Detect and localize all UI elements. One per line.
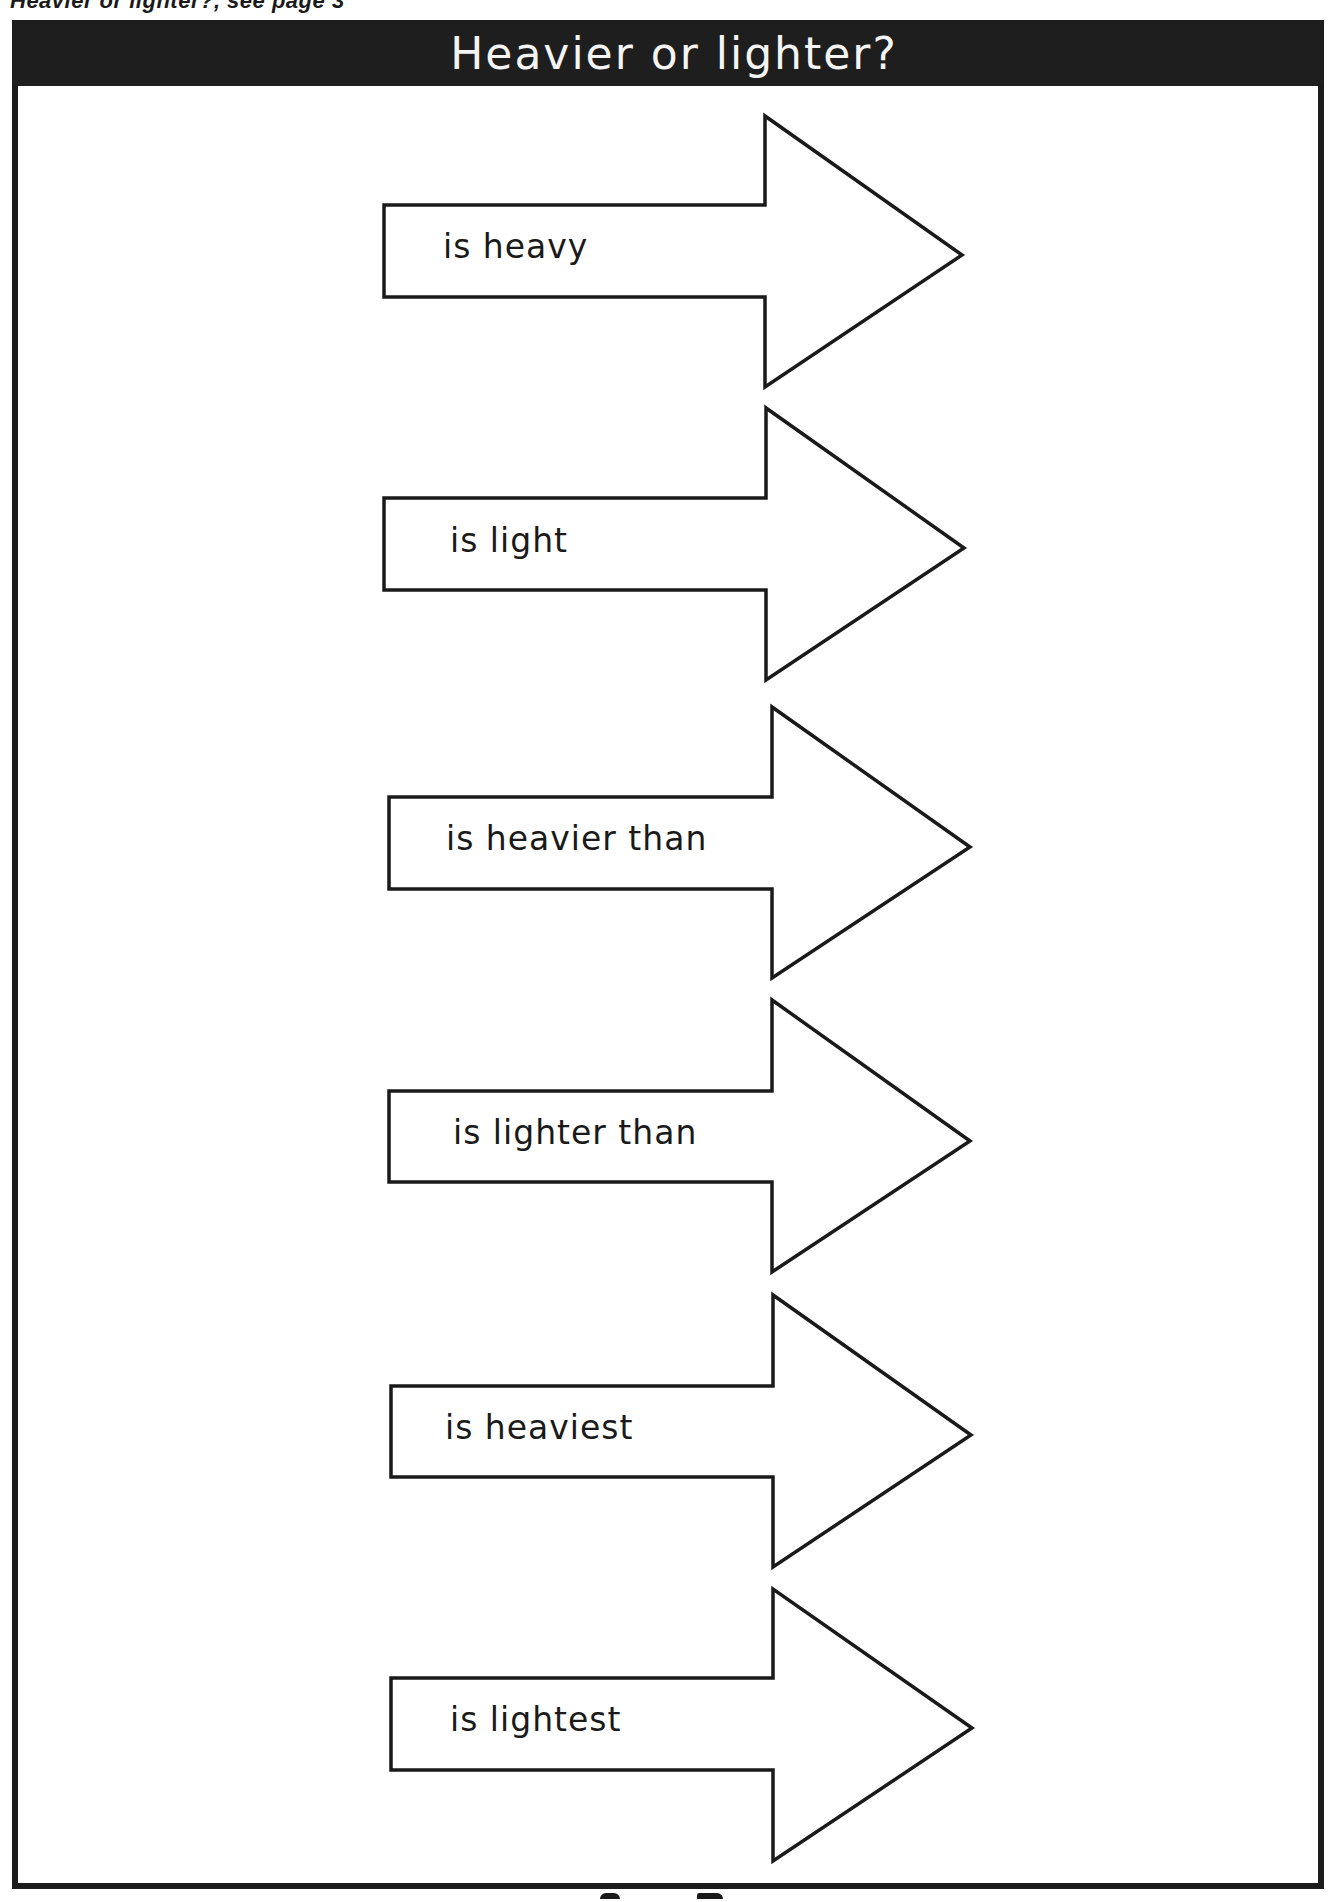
footer-glyph-fragment — [600, 1893, 620, 1899]
arrows-layer — [0, 0, 1330, 1902]
arrow-label-3: is heavier than — [446, 822, 707, 855]
footer-fragment — [0, 1893, 1330, 1902]
arrow-label-2: is light — [450, 524, 568, 557]
arrow-label-6: is lightest — [450, 1703, 621, 1736]
arrow-label-1: is heavy — [443, 230, 588, 263]
arrow-label-4: is lighter than — [453, 1116, 697, 1149]
footer-glyph-fragment — [697, 1893, 723, 1899]
arrow-label-5: is heaviest — [445, 1411, 633, 1444]
